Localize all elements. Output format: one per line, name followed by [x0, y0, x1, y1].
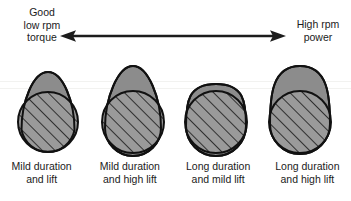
right-axis-label: High rpm power — [288, 18, 348, 43]
lobe-4-caption: Long duration and high lift — [264, 160, 351, 186]
lobe-3-caption-line-2: and mild lift — [175, 173, 262, 186]
lobe-3-caption-line-1: Long duration — [175, 160, 262, 173]
cam-lobe-profiles — [0, 58, 351, 158]
lobe-3-caption: Long duration and mild lift — [175, 160, 262, 186]
right-axis-label-line-1: High rpm — [288, 18, 348, 31]
lobe-captions: Mild duration and lift Mild duration and… — [0, 160, 351, 186]
lobe-4-caption-line-2: and high lift — [264, 173, 351, 186]
right-axis-label-line-2: power — [288, 31, 348, 44]
left-axis-label-line-1: Good — [14, 6, 70, 19]
lobe-2 — [102, 66, 164, 156]
lobe-1-caption-line-1: Mild duration — [0, 160, 85, 173]
double-headed-arrow-icon — [58, 24, 288, 48]
lobe-1-caption: Mild duration and lift — [0, 160, 85, 186]
lobe-1 — [18, 72, 78, 152]
lobe-2-caption-line-1: Mild duration — [86, 160, 173, 173]
camshaft-lobe-diagram: Good low rpm torque High rpm power — [0, 0, 351, 201]
lobe-2-caption: Mild duration and high lift — [86, 160, 173, 186]
lobe-2-caption-line-2: and high lift — [86, 173, 173, 186]
lobe-3 — [185, 84, 247, 156]
lobe-4 — [269, 66, 331, 154]
lobe-4-caption-line-1: Long duration — [264, 160, 351, 173]
lobe-1-caption-line-2: and lift — [0, 173, 85, 186]
